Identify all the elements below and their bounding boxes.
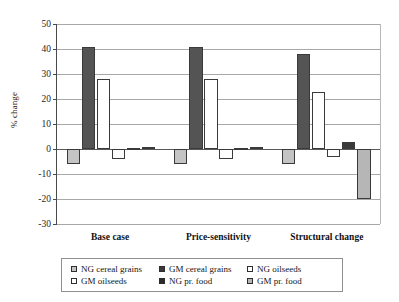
legend-item: GM oilseeds [71, 275, 159, 287]
bar [67, 149, 80, 164]
bar-slot [326, 24, 341, 224]
y-tick-label: -10 [38, 169, 57, 179]
x-axis-labels: Base casePrice-sensitivityStructural cha… [56, 232, 381, 242]
bar [127, 148, 140, 150]
x-axis-label: Base case [56, 232, 164, 242]
bar-slot [188, 24, 203, 224]
bar [204, 79, 217, 149]
legend-swatch-icon [159, 278, 165, 284]
legend-item-label: GM cereal grains [169, 263, 231, 275]
bar-slot [356, 24, 371, 224]
bar-slot [249, 24, 264, 224]
bar-slot [311, 24, 326, 224]
y-tick-label: -30 [38, 219, 57, 229]
bar-slot [281, 24, 296, 224]
bar-slot [126, 24, 141, 224]
y-tick-label: 10 [42, 119, 58, 129]
legend-swatch-icon [71, 278, 77, 284]
y-tick-label: 50 [42, 19, 58, 29]
bar [82, 47, 95, 150]
legend-item: GM cereal grains [159, 263, 247, 275]
x-axis-label: Structural change [273, 232, 381, 242]
bar [234, 148, 247, 150]
bar [174, 149, 187, 164]
bar [189, 47, 202, 150]
bar [327, 149, 340, 157]
bar-slot [341, 24, 356, 224]
bar-slot [296, 24, 311, 224]
legend-swatch-icon [247, 266, 253, 272]
bar-slot [173, 24, 188, 224]
x-axis-label: Price-sensitivity [164, 232, 272, 242]
plot-area: 50403020100-10-20-30 [56, 24, 381, 224]
bar-slot [203, 24, 218, 224]
gridline--30 [57, 224, 380, 225]
legend-item-label: GM pr. food [257, 275, 302, 287]
legend-item: NG pr. food [159, 275, 247, 287]
bar-groups [57, 24, 380, 224]
legend-item-label: NG oilseeds [257, 263, 301, 275]
bar [297, 54, 310, 149]
y-axis-title: % change [9, 70, 19, 150]
bar-group [57, 24, 165, 224]
legend-item: GM pr. food [247, 275, 335, 287]
legend-swatch-icon [159, 266, 165, 272]
y-tick-label: -20 [38, 194, 57, 204]
bar-group [272, 24, 380, 224]
y-tick-label: 0 [46, 144, 57, 154]
bar [112, 149, 125, 159]
y-tick-label: 20 [42, 94, 58, 104]
bar-slot [81, 24, 96, 224]
bar-slot [96, 24, 111, 224]
legend-item-label: NG pr. food [169, 275, 212, 287]
bar [282, 149, 295, 164]
chart-legend: NG cereal grainsGM cereal grainsNG oilse… [61, 258, 343, 292]
bar-group [165, 24, 273, 224]
bar-slot [219, 24, 234, 224]
bar [342, 142, 355, 150]
legend-item: NG cereal grains [71, 263, 159, 275]
legend-item-label: GM oilseeds [81, 275, 127, 287]
bar-slot [66, 24, 81, 224]
bar-slot [111, 24, 126, 224]
bar-group-bars [66, 24, 156, 224]
bar-group-bars [281, 24, 371, 224]
y-tick-label: 40 [42, 44, 58, 54]
bar [312, 92, 325, 150]
bar-slot [141, 24, 156, 224]
legend-item: NG oilseeds [247, 263, 335, 275]
y-tick-label: 30 [42, 69, 58, 79]
bar [219, 149, 232, 159]
bar [97, 79, 110, 149]
legend-item-label: NG cereal grains [81, 263, 142, 275]
bar [142, 147, 155, 150]
bar-group-bars [173, 24, 263, 224]
chart-container: % change 50403020100-10-20-30 Base caseP… [0, 0, 399, 302]
legend-swatch-icon [71, 266, 77, 272]
bar-slot [234, 24, 249, 224]
bar [357, 149, 370, 199]
bar [250, 147, 263, 150]
legend-swatch-icon [247, 278, 253, 284]
